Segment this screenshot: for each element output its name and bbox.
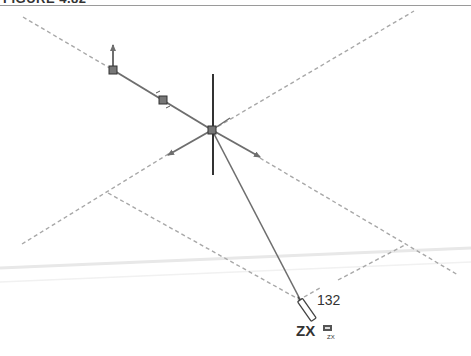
- sketch-canvas[interactable]: FIGURE 4.82: [0, 0, 471, 356]
- arrow-lower-left: [168, 130, 212, 155]
- construction-line-upper-right: [212, 11, 414, 130]
- dimension-value: 132: [317, 292, 340, 308]
- midpoint-handle[interactable]: [159, 96, 167, 104]
- construction-line-plane-edge: [108, 193, 300, 300]
- sketch-lines: [113, 45, 303, 305]
- endpoint-handle-1[interactable]: [109, 66, 117, 74]
- sketch-graphics: ZX: [0, 0, 471, 356]
- plane-zx-icon: ZX: [323, 325, 335, 340]
- svg-text:ZX: ZX: [327, 334, 335, 340]
- construction-line-plane-edge-right: [338, 245, 405, 280]
- plane-label: ZX: [296, 322, 315, 339]
- origin-handle[interactable]: [208, 126, 216, 134]
- construction-line-lower-right: [260, 158, 458, 275]
- construction-line-lower-left: [22, 153, 170, 244]
- guide-bands: [0, 248, 471, 282]
- construction-line-upper-left: [23, 17, 113, 70]
